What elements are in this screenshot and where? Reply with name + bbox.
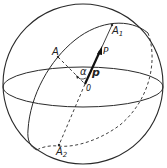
axis-lower [59,84,85,145]
label-A1-base: A [112,25,119,36]
sphere-diagram: A A1 A2 P p α 0 [0,0,167,168]
label-A1: A1 [112,26,123,39]
label-A2: A2 [56,147,67,160]
vector-p-arrowhead [97,46,102,55]
label-A: A [52,47,59,57]
label-alpha: α [80,67,87,77]
label-A1-sub: 1 [119,30,123,38]
label-P: P [103,46,108,56]
label-A2-base: A [56,146,63,157]
sphere-outline [3,4,163,164]
label-p: p [92,68,100,78]
label-O: 0 [86,84,91,94]
diagram-svg [0,0,167,168]
label-A2-sub: 2 [63,151,67,159]
